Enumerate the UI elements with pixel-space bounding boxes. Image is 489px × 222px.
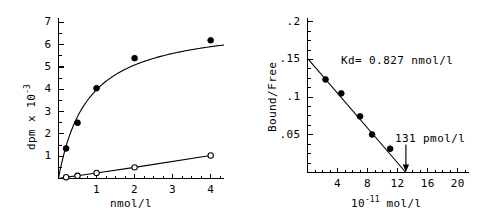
total-binding-point — [132, 55, 138, 61]
scatchard-x-tick-label: 16 — [421, 178, 435, 189]
nonspecific-binding-point — [208, 153, 213, 158]
saturation-x-tick-label: 1 — [93, 184, 100, 195]
total-binding-point — [208, 37, 214, 43]
xintercept-annotation: 131 pmol/l — [395, 133, 465, 144]
scatchard-data-point — [369, 132, 375, 138]
scatchard-data-point — [387, 146, 393, 152]
saturation-y-tick-label: 6 — [44, 39, 51, 50]
total-binding-point — [75, 120, 81, 126]
saturation-x-tick-label: 4 — [207, 184, 214, 195]
nonspecific-binding-point — [75, 173, 80, 178]
scatchard-y-tick-label: .1 — [286, 91, 300, 102]
saturation-y-tick-label: 4 — [44, 83, 51, 94]
total-binding-point — [94, 85, 100, 91]
saturation-y-axis-title: dpm x 10-3 — [24, 84, 37, 150]
saturation-y-tick-label: 3 — [44, 106, 51, 117]
nonspecific-binding-point — [94, 170, 99, 175]
scatchard-x-tick-label: 20 — [451, 178, 465, 189]
saturation-binding-panel: dpm x 10-3 nmol/l 12345671234 — [0, 0, 245, 222]
scatchard-x-ticks — [315, 168, 465, 173]
scatchard-data-point — [338, 90, 344, 96]
scatchard-x-tick-label: 4 — [334, 178, 341, 189]
scatchard-y-tick-label: .15 — [279, 53, 300, 64]
scatchard-y-ticks — [308, 22, 313, 163]
scatchard-x-tick-label: 8 — [364, 178, 371, 189]
scatchard-y-tick-label: .2 — [286, 16, 300, 27]
scatchard-y-axis-title: Bound/Free — [267, 62, 278, 132]
scatchard-x-axis-exponent: -11 — [365, 195, 379, 204]
saturation-y-ticks — [59, 22, 64, 167]
xintercept-arrow-icon — [403, 145, 409, 173]
total-binding-point — [63, 146, 69, 152]
saturation-y-axis-title-text: dpm x 10 — [25, 94, 38, 150]
scatchard-x-axis-title: 10-11 mol/l — [351, 196, 422, 209]
total-binding-points — [63, 37, 213, 151]
saturation-x-axis-title: nmol/l — [110, 198, 152, 209]
kd-annotation: Kd= 0.827 nmol/l — [341, 55, 453, 66]
total-binding-curve — [59, 45, 225, 179]
nonspecific-binding-point — [132, 165, 137, 170]
scatchard-data-point — [357, 113, 363, 119]
saturation-y-tick-label: 5 — [44, 61, 51, 72]
scatchard-panel: Bound/Free 10-11 mol/l Kd= 0.827 nmol/l … — [245, 0, 489, 222]
nonspecific-binding-point — [63, 174, 68, 179]
saturation-x-tick-label: 3 — [169, 184, 176, 195]
scatchard-x-axis-units: mol/l — [387, 197, 422, 210]
scatchard-y-tick-label: .05 — [279, 129, 300, 140]
scatchard-data-point — [323, 77, 329, 83]
scatchard-x-axis-base: 10 — [351, 197, 365, 210]
saturation-x-tick-label: 2 — [131, 184, 138, 195]
scatchard-x-tick-label: 12 — [391, 178, 405, 189]
saturation-y-axis-exponent: -3 — [23, 84, 32, 94]
saturation-y-tick-label: 7 — [44, 16, 51, 27]
saturation-y-tick-label: 2 — [44, 128, 51, 139]
figure-container: dpm x 10-3 nmol/l 12345671234 Bound/Free… — [0, 0, 489, 222]
scatchard-regression-line — [308, 58, 406, 172]
saturation-y-tick-label: 1 — [44, 150, 51, 161]
